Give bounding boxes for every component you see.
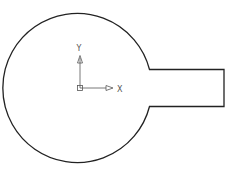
ucs-y-label: Y xyxy=(76,44,82,53)
ucs-x-arrow xyxy=(106,86,113,91)
ucs-x-label: X xyxy=(117,85,123,94)
ucs-icon xyxy=(78,56,114,91)
drawing-canvas: Y X xyxy=(0,0,232,171)
